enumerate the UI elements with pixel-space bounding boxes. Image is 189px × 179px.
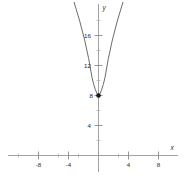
x-tick-label-4: 4: [127, 161, 131, 168]
y-tick-label-4: 4: [88, 122, 92, 129]
parabola-plot: -8 -4 4 8 4 12 16 8 x y: [0, 0, 189, 179]
y-axis-label: y: [101, 4, 106, 12]
y-tick-label-16: 16: [84, 32, 91, 39]
x-axis-label: x: [169, 144, 174, 151]
y-tick-label-12: 12: [84, 62, 91, 69]
vertex-point-label: 8: [90, 92, 94, 99]
x-tick-label-8: 8: [157, 161, 161, 168]
vertex-point-marker: [96, 93, 101, 98]
x-tick-label-neg8: -8: [36, 161, 42, 168]
x-tick-label-neg4: -4: [66, 161, 72, 168]
graph-canvas: -8 -4 4 8 4 12 16 8 x y: [0, 0, 189, 179]
